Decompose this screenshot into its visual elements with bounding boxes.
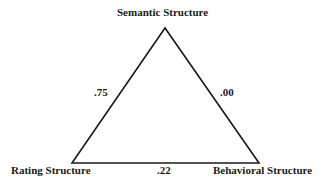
node-semantic-structure: Semantic Structure (117, 6, 208, 18)
edge-label-semantic-rating: .75 (94, 86, 108, 98)
edge-label-rating-behavioral: .22 (157, 164, 171, 176)
node-behavioral-structure: Behavioral Structure (213, 164, 312, 176)
node-rating-structure: Rating Structure (11, 164, 91, 176)
edge-label-semantic-behavioral: .00 (220, 86, 234, 98)
